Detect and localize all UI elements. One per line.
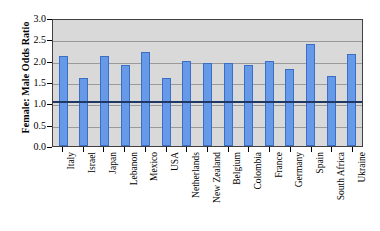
bar — [285, 69, 294, 146]
x-tick-slot — [156, 147, 177, 152]
bar — [265, 61, 274, 146]
x-tick-mark — [186, 147, 187, 152]
x-tick-mark — [290, 147, 291, 152]
reference-line — [53, 101, 362, 103]
x-tick-mark — [311, 147, 312, 152]
x-tick-slot — [322, 147, 343, 152]
x-label-slot: Netherlands — [176, 152, 197, 228]
x-axis-ticks — [52, 147, 363, 152]
y-tick-label: 2.5 — [34, 35, 47, 45]
x-label-slot: Spain — [301, 152, 322, 228]
x-tick-mark — [207, 147, 208, 152]
x-label-slot: Japan — [93, 152, 114, 228]
x-label-slot: Colombia — [239, 152, 260, 228]
x-tick-mark — [228, 147, 229, 152]
bar-slot — [300, 20, 321, 146]
bar-slot — [156, 20, 177, 146]
bar — [121, 65, 130, 146]
x-tick-slot — [135, 147, 156, 152]
bar-slot — [218, 20, 239, 146]
bar-slot — [177, 20, 198, 146]
x-label-slot: France — [259, 152, 280, 228]
bar — [141, 52, 150, 146]
y-tick-label: 0.0 — [34, 142, 47, 152]
bar — [224, 63, 233, 146]
x-tick-mark — [331, 147, 332, 152]
x-tick-slot — [52, 147, 73, 152]
x-label-slot: Germany — [280, 152, 301, 228]
bar-slot — [238, 20, 259, 146]
bar — [182, 61, 191, 146]
x-tick-mark — [248, 147, 249, 152]
y-tick-label: 1.0 — [34, 99, 47, 109]
x-label-slot: Israel — [73, 152, 94, 228]
x-tick-slot — [114, 147, 135, 152]
x-label-slot: Belgium — [218, 152, 239, 228]
x-tick-slot — [218, 147, 239, 152]
y-tick-label: 2.0 — [34, 57, 47, 67]
x-label-slot: USA — [156, 152, 177, 228]
x-tick-slot — [93, 147, 114, 152]
bar-slot — [259, 20, 280, 146]
x-label-slot: Ukraine — [342, 152, 363, 228]
bar-slot — [197, 20, 218, 146]
x-tick-mark — [352, 147, 353, 152]
bar-slot — [341, 20, 362, 146]
x-tick-slot — [239, 147, 260, 152]
x-tick-mark — [83, 147, 84, 152]
x-tick-slot — [176, 147, 197, 152]
bar-slot — [135, 20, 156, 146]
bar — [79, 78, 88, 146]
x-label-slot: Lebanon — [114, 152, 135, 228]
bar-slot — [115, 20, 136, 146]
x-tick-mark — [166, 147, 167, 152]
x-tick-label: Ukraine — [357, 152, 367, 183]
x-tick-slot — [342, 147, 363, 152]
y-axis-ticks: 3.02.52.01.51.00.50.0 — [24, 14, 52, 147]
bar — [306, 44, 315, 146]
x-tick-mark — [103, 147, 104, 152]
x-tick-mark — [145, 147, 146, 152]
x-label-slot: New Zealand — [197, 152, 218, 228]
bar-slot — [94, 20, 115, 146]
y-tick-label: 3.0 — [34, 14, 47, 24]
x-tick-mark — [62, 147, 63, 152]
x-label-slot: South Africa — [322, 152, 343, 228]
bar-slot — [53, 20, 74, 146]
x-axis-labels: ItalyIsraelJapanLebanonMexicoUSANetherla… — [52, 152, 363, 228]
x-tick-slot — [280, 147, 301, 152]
bar — [162, 78, 171, 146]
x-label-slot: Mexico — [135, 152, 156, 228]
y-tick-label: 1.5 — [34, 78, 47, 88]
x-label-slot: Italy — [52, 152, 73, 228]
bar — [244, 65, 253, 146]
x-tick-mark — [269, 147, 270, 152]
bar-series — [53, 20, 362, 146]
y-tick-label: 0.5 — [34, 121, 47, 131]
bar-chart: Female: Male Odds Ratio 3.02.52.01.51.00… — [0, 0, 380, 231]
bar-slot — [74, 20, 95, 146]
x-tick-slot — [73, 147, 94, 152]
x-tick-mark — [124, 147, 125, 152]
plot-area — [52, 19, 363, 147]
bar — [327, 76, 336, 146]
x-tick-slot — [259, 147, 280, 152]
x-tick-slot — [197, 147, 218, 152]
bar — [203, 63, 212, 146]
bar-slot — [280, 20, 301, 146]
bar-slot — [321, 20, 342, 146]
x-tick-slot — [301, 147, 322, 152]
